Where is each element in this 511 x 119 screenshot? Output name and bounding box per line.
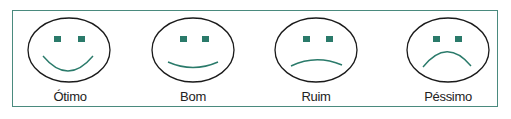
face-pessimo xyxy=(407,18,489,82)
slight-frown-mouth-icon xyxy=(291,60,342,66)
face-bom xyxy=(152,18,234,82)
big-frown-mouth-icon xyxy=(423,52,471,67)
label-pessimo: Péssimo xyxy=(424,89,472,104)
face-ruim xyxy=(275,18,357,82)
face-outline-icon xyxy=(152,18,234,82)
left-eye-icon xyxy=(433,36,440,42)
label-otimo: Ótimo xyxy=(53,89,86,104)
big-smile-mouth-icon xyxy=(43,56,93,71)
left-eye-icon xyxy=(303,36,310,42)
right-eye-icon xyxy=(202,36,209,42)
face-outline-icon xyxy=(28,18,110,82)
right-eye-icon xyxy=(78,36,85,42)
face-outline-icon xyxy=(275,18,357,82)
label-bom: Bom xyxy=(180,89,206,104)
face-otimo xyxy=(28,18,110,82)
left-eye-icon xyxy=(180,36,187,42)
right-eye-icon xyxy=(455,36,462,42)
left-eye-icon xyxy=(54,36,61,42)
face-outline-icon xyxy=(407,18,489,82)
label-ruim: Ruim xyxy=(301,89,330,104)
right-eye-icon xyxy=(326,36,333,42)
slight-smile-mouth-icon xyxy=(168,62,218,68)
